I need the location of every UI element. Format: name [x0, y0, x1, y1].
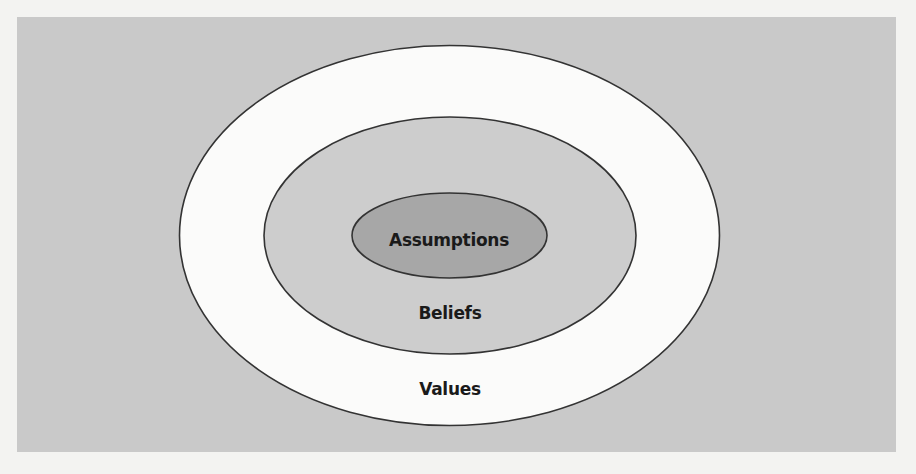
beliefs-label: Beliefs: [418, 303, 481, 323]
assumptions-label: Assumptions: [389, 230, 509, 250]
values-label: Values: [419, 379, 480, 399]
figure-page: Assumptions Beliefs Values: [0, 0, 916, 474]
